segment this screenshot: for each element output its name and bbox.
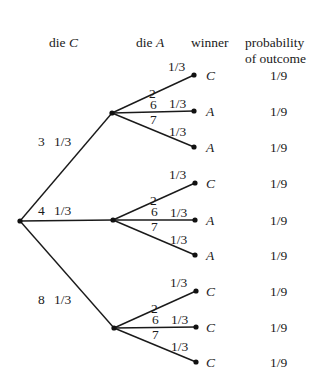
die-a-prob-label: 1/3 — [169, 167, 187, 182]
outcome-probability: 1/9 — [270, 248, 288, 263]
die-c-value-label: 8 — [38, 292, 45, 307]
leaf-node — [192, 252, 197, 257]
branch-labels: 31/341/381/321/361/371/321/361/371/321/3… — [38, 59, 189, 354]
die-a-value-label: 6 — [150, 97, 157, 112]
header-winner: winner — [191, 35, 229, 50]
outcome-probability: 1/9 — [270, 355, 288, 370]
leaf-node — [191, 144, 196, 149]
outcome-probability: 1/9 — [270, 140, 288, 155]
leaf-node — [192, 180, 197, 185]
tree-canvas: die C die A winner probability of outcom… — [0, 0, 321, 386]
die-a-prob-label: 1/3 — [171, 339, 189, 354]
winner-label: A — [205, 140, 215, 155]
die-c-node-4 — [110, 217, 115, 222]
header-die-c: die C — [49, 35, 79, 50]
die-a-value-label: 7 — [150, 112, 157, 127]
die-c-prob-label: 1/3 — [54, 203, 72, 218]
winner-label: A — [205, 213, 215, 228]
die-a-prob-label: 1/3 — [170, 205, 188, 220]
branch-die-c-4 — [20, 220, 113, 221]
die-a-value-label: 7 — [151, 219, 158, 234]
outcome-column: C1/9A1/9A1/9C1/9A1/9A1/9C1/9C1/9C1/9 — [205, 68, 288, 370]
outcome-probability: 1/9 — [270, 68, 288, 83]
outcome-probability: 1/9 — [270, 213, 288, 228]
header-die-a: die A — [136, 35, 165, 50]
root-node — [17, 218, 22, 223]
die-c-value-label: 4 — [38, 203, 45, 218]
die-c-prob-label: 1/3 — [54, 134, 72, 149]
probability-tree-diagram: die C die A winner probability of outcom… — [0, 0, 321, 386]
leaf-node — [191, 108, 196, 113]
winner-label: C — [206, 68, 216, 83]
die-c-value-label: 3 — [38, 134, 45, 149]
winner-label: C — [206, 284, 216, 299]
winner-label: C — [206, 320, 216, 335]
header-probability-line2: of outcome — [245, 51, 306, 66]
header-probability-line1: probability — [245, 35, 304, 50]
die-a-value-label: 6 — [151, 204, 158, 219]
die-a-prob-label: 1/3 — [171, 312, 189, 327]
outcome-probability: 1/9 — [270, 320, 288, 335]
die-a-value-label: 7 — [152, 327, 159, 342]
die-c-prob-label: 1/3 — [54, 292, 72, 307]
winner-label: A — [205, 248, 215, 263]
leaf-node — [193, 288, 198, 293]
die-a-prob-label: 1/3 — [170, 275, 188, 290]
outcome-probability: 1/9 — [270, 176, 288, 191]
outcome-probability: 1/9 — [270, 104, 288, 119]
die-a-value-label: 6 — [152, 312, 159, 327]
branch-die-c-8 — [20, 221, 114, 328]
outcome-probability: 1/9 — [270, 284, 288, 299]
winner-label: C — [206, 176, 216, 191]
leaf-node — [191, 72, 196, 77]
die-c-node-3 — [109, 110, 114, 115]
die-a-prob-label: 1/3 — [168, 59, 186, 74]
leaf-node — [192, 217, 197, 222]
die-a-prob-label: 1/3 — [169, 124, 187, 139]
winner-label: C — [206, 355, 216, 370]
leaf-node — [193, 359, 198, 364]
leaf-node — [193, 324, 198, 329]
die-a-prob-label: 1/3 — [169, 96, 187, 111]
winner-label: A — [205, 104, 215, 119]
die-a-prob-label: 1/3 — [170, 232, 188, 247]
die-c-node-8 — [111, 325, 116, 330]
